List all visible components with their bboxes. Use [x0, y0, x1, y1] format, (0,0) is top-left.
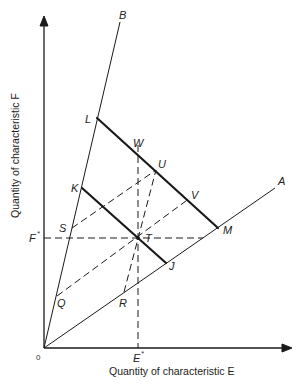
line-LM: [97, 118, 218, 228]
diagram-canvas: B A L K S Q W U V M T J R F * E * 0 Quan…: [0, 0, 301, 392]
point-labels: B A L K S Q W U V M T J R: [57, 9, 285, 309]
dashed-SU: [72, 170, 156, 228]
label-F-star-superscript: *: [37, 230, 40, 237]
label-E-star-superscript: *: [141, 350, 144, 357]
label-V: V: [191, 189, 200, 201]
label-W: W: [133, 137, 145, 149]
line-KJ: [82, 188, 166, 263]
point-T-marker: [136, 236, 140, 240]
ray-B: [44, 22, 120, 348]
y-axis-title: Quantity of characteristic F: [9, 93, 21, 218]
label-R: R: [119, 297, 127, 309]
label-A: A: [277, 175, 285, 187]
y-axis-arrow-icon: [40, 16, 48, 26]
x-axis-arrow-icon: [282, 344, 292, 352]
ray-A: [44, 188, 275, 348]
label-E-star: E: [133, 352, 141, 364]
x-axis-title: Quantity of characteristic E: [109, 365, 234, 377]
origin-label: 0: [36, 353, 41, 362]
label-M: M: [223, 224, 233, 236]
label-F-star: F: [29, 232, 37, 244]
label-K: K: [71, 182, 79, 194]
dashed-QV: [57, 198, 190, 296]
label-S: S: [59, 222, 67, 234]
label-U: U: [158, 158, 166, 170]
label-B: B: [119, 9, 126, 21]
rays: [44, 22, 275, 348]
label-T: T: [145, 232, 153, 244]
label-L: L: [85, 113, 91, 125]
label-Q: Q: [57, 297, 66, 309]
label-J: J: [168, 260, 175, 272]
